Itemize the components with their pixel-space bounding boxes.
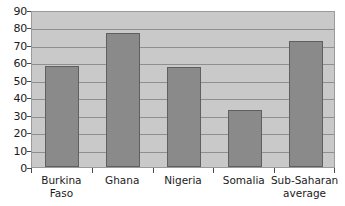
bar-slot [275, 12, 335, 167]
bar-slot [93, 12, 154, 167]
x-axis-category-label-line1: Ghana [105, 174, 139, 186]
y-axis-tick-label: 20 [0, 128, 27, 139]
x-axis-category-label-line1: Sub-Saharan [271, 174, 338, 186]
x-axis-tick [92, 168, 93, 173]
y-axis-tick [27, 46, 31, 47]
bar-slot [154, 12, 215, 167]
y-axis-tick-label: 70 [0, 41, 27, 52]
x-axis-tick [274, 168, 275, 173]
x-axis-tick [31, 168, 32, 173]
plot-area [31, 11, 335, 168]
x-axis-tick [334, 168, 335, 173]
x-axis-category-label: Sub-Saharanaverage [262, 174, 345, 200]
x-axis-ticks [31, 168, 335, 173]
y-axis-tick [27, 28, 31, 29]
y-axis-tick [27, 81, 31, 82]
y-axis-tick [27, 11, 31, 12]
bar[interactable] [289, 41, 323, 167]
bar-chart: 9080706050403020100 BurkinaFasoGhanaNige… [0, 0, 345, 206]
x-axis-category-label-line2: average [262, 187, 345, 200]
y-axis-tick-label: 50 [0, 76, 27, 87]
y-axis-tick-label: 60 [0, 58, 27, 69]
bar[interactable] [167, 67, 201, 167]
y-axis-tick [27, 151, 31, 152]
x-axis-category-label-line1: Burkina [41, 174, 81, 186]
bar[interactable] [228, 110, 262, 167]
bar[interactable] [106, 33, 140, 167]
x-axis-category-label-line1: Nigeria [164, 174, 202, 186]
y-axis-tick [27, 63, 31, 64]
x-axis-category-label-line2: Faso [19, 187, 104, 200]
bar-slot [32, 12, 93, 167]
y-axis-tick-label: 0 [0, 163, 27, 174]
y-axis-tick-label: 80 [0, 23, 27, 34]
y-axis-tick-label: 10 [0, 146, 27, 157]
y-axis-tick [27, 133, 31, 134]
x-axis-tick [213, 168, 214, 173]
y-axis-tick [27, 168, 31, 169]
y-axis-tick-label: 90 [0, 6, 27, 17]
x-axis-tick [153, 168, 154, 173]
x-axis-category-label-line1: Somalia [223, 174, 265, 186]
y-axis-tick-label: 40 [0, 93, 27, 104]
x-axis-labels: BurkinaFasoGhanaNigeriaSomaliaSub-Sahara… [31, 174, 335, 206]
y-axis-tick-label: 30 [0, 111, 27, 122]
bars-group [32, 12, 334, 167]
bar[interactable] [45, 66, 79, 167]
y-axis-tick [27, 116, 31, 117]
bar-slot [214, 12, 275, 167]
y-axis-tick [27, 98, 31, 99]
